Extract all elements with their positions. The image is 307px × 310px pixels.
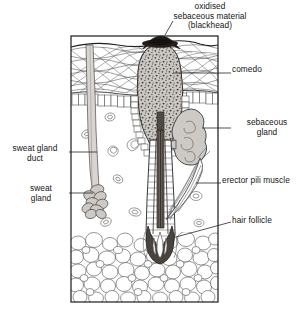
label-sebaceous-gland: sebaceous gland	[232, 118, 302, 137]
label-sweat-gland: sweat gland	[14, 184, 68, 203]
label-comedo: comedo	[232, 65, 302, 75]
blood-vessel	[108, 146, 119, 156]
skin-cross-section-figure: oxidised sebaceous material (blackhead) …	[0, 0, 307, 310]
label-oxidised-sebaceous-material: oxidised sebaceous material (blackhead)	[150, 2, 270, 31]
label-hair-follicle: hair follicle	[232, 216, 302, 226]
label-erector-pili-muscle: erector pili muscle	[222, 176, 307, 186]
label-sweat-gland-duct: sweat gland duct	[2, 144, 68, 163]
hair-shaft	[157, 130, 164, 228]
blood-vessel	[194, 219, 204, 227]
